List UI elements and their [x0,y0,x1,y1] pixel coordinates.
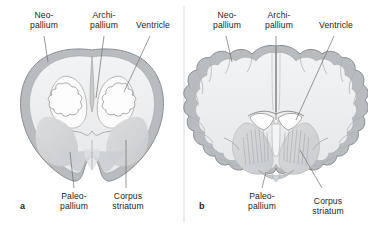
label-paleopallium-b: Paleo- pallium [229,191,295,211]
label-ventricle-a: Ventricle [124,20,182,30]
label-ventricle-b: Ventricle [307,20,365,30]
septum-pellucidum-b [272,124,280,156]
panel-letter-a: a [20,201,25,211]
embryonic-brain-figure [21,49,164,181]
label-corpus-striatum-a: Corpus striatum [95,191,161,211]
panel-letter-b: b [199,201,205,211]
label-corpus-striatum-b: Corpus striatum [295,196,361,216]
label-neopallium-a: Neo- pallium [10,10,78,30]
label-archipallium-b: Archi- pallium [248,10,310,30]
figure-container: Neo- pallium Archi- pallium Ventricle Pa… [0,0,368,228]
